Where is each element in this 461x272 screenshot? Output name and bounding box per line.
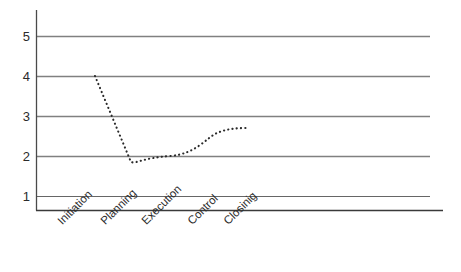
line-chart-plot bbox=[0, 0, 461, 272]
y-tick-label-4: 4 bbox=[14, 70, 30, 83]
y-tick-label-3: 3 bbox=[14, 110, 30, 123]
y-tick-label-5: 5 bbox=[14, 30, 30, 43]
chart-container: 5 4 3 2 1 Initiation Planning Execution … bbox=[0, 0, 461, 272]
y-tick-label-1: 1 bbox=[14, 190, 30, 203]
y-tick-label-2: 2 bbox=[14, 150, 30, 163]
chart-background bbox=[0, 0, 461, 272]
